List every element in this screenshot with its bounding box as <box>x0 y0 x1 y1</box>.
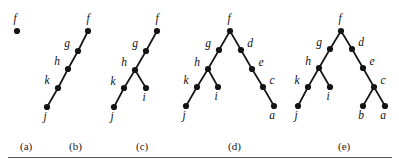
tree-node-label-c-k: k <box>110 75 116 87</box>
tree-edge-e-c-b <box>363 87 374 106</box>
tree-edge-c-h-i <box>135 70 146 88</box>
tree-node-e-h[interactable] <box>316 65 322 71</box>
tree-node-label-c-f: f <box>155 12 160 25</box>
tree-node-d-e[interactable] <box>249 66 255 72</box>
tree-edge-e-f-g <box>330 31 341 49</box>
tree-node-label-e-g: g <box>316 36 322 49</box>
tree-node-label-e-f: f <box>338 12 343 25</box>
tree-node-label-d-d: d <box>247 37 253 49</box>
panel-caption-b: (b) <box>69 140 82 152</box>
tree-edge-d-g-h <box>208 50 219 69</box>
tree-node-c-f[interactable] <box>154 28 160 34</box>
panel-caption-d: (d) <box>228 140 241 152</box>
tree-edge-c-f-g <box>146 31 157 51</box>
tree-node-label-d-j: j <box>180 109 185 122</box>
tree-edge-e-e-c <box>363 68 374 87</box>
tree-node-e-c[interactable] <box>371 84 377 90</box>
tree-node-label-e-h: h <box>305 55 311 67</box>
tree-node-label-c-i: i <box>142 91 145 103</box>
tree-edge-d-k-j <box>186 87 197 106</box>
figure-root: ffghkjfghkijfgdhekicjafgdhekicjba (a)(b)… <box>0 0 399 167</box>
tree-edge-c-h-k <box>124 70 135 88</box>
tree-node-label-e-i: i <box>326 90 329 102</box>
tree-node-d-h[interactable] <box>205 66 211 72</box>
tree-edge-e-h-k <box>308 68 319 87</box>
panels-layer: ffghkjfghkijfgdhekicjafgdhekicjba <box>13 12 388 123</box>
tree-node-label-e-e: e <box>369 55 374 67</box>
tree-node-label-d-c: c <box>269 74 274 86</box>
tree-node-b-k[interactable] <box>55 85 61 91</box>
tree-node-c-k[interactable] <box>121 85 127 91</box>
tree-edge-d-e-c <box>252 69 263 87</box>
tree-panel-b: fghkj <box>41 12 91 123</box>
tree-edge-e-h-i <box>319 68 330 87</box>
tree-node-label-d-f: f <box>227 12 232 25</box>
tree-node-label-b-j: j <box>41 110 46 123</box>
tree-node-label-c-g: g <box>132 37 138 50</box>
tree-node-d-d[interactable] <box>238 47 244 53</box>
tree-edge-c-g-h <box>135 51 146 70</box>
tree-node-label-e-a: a <box>380 109 386 121</box>
tree-panel-e: fgdhekicjba <box>292 12 388 122</box>
tree-edge-e-d-e <box>352 49 363 68</box>
tree-edge-e-g-h <box>319 49 330 68</box>
tree-node-label-d-a: a <box>269 109 275 121</box>
tree-node-label-a-f: f <box>13 12 18 25</box>
tree-node-label-e-c: c <box>380 74 385 86</box>
tree-node-d-g[interactable] <box>216 47 222 53</box>
panel-caption-a: (a) <box>20 140 32 152</box>
tree-node-label-d-h: h <box>194 56 200 68</box>
tree-node-label-c-h: h <box>121 56 127 68</box>
tree-node-label-c-j: j <box>108 110 113 123</box>
tree-edge-d-c-a <box>263 87 274 106</box>
tree-node-c-g[interactable] <box>143 48 149 54</box>
tree-node-e-k[interactable] <box>305 84 311 90</box>
panel-caption-c: (c) <box>136 140 148 152</box>
tree-node-e-f[interactable] <box>338 28 344 34</box>
tree-node-e-g[interactable] <box>327 46 333 52</box>
tree-node-e-e[interactable] <box>360 65 366 71</box>
panel-caption-e: (e) <box>338 140 350 152</box>
tree-node-d-k[interactable] <box>194 84 200 90</box>
tree-edge-b-h-k <box>58 69 68 88</box>
tree-node-label-d-i: i <box>214 90 217 102</box>
tree-edge-e-c-a <box>374 87 385 106</box>
tree-node-c-h[interactable] <box>132 67 138 73</box>
tree-node-d-f[interactable] <box>227 28 233 34</box>
tree-node-label-b-h: h <box>54 55 60 67</box>
tree-node-label-b-k: k <box>44 74 50 86</box>
tree-node-a-f[interactable] <box>14 28 20 34</box>
tree-panel-d: fgdhekicja <box>180 12 277 122</box>
tree-node-label-e-j: j <box>292 109 297 122</box>
tree-node-label-b-g: g <box>64 37 70 50</box>
tree-edge-e-k-j <box>298 87 308 106</box>
tree-edge-b-f-g <box>78 31 88 51</box>
tree-panel-a: f <box>13 12 20 34</box>
tree-edge-d-h-k <box>197 69 208 87</box>
tree-node-b-f[interactable] <box>85 28 91 34</box>
tree-node-label-d-g: g <box>205 37 211 50</box>
tree-edge-b-k-j <box>47 88 58 107</box>
tree-node-label-d-k: k <box>183 74 189 86</box>
tree-node-b-g[interactable] <box>75 48 81 54</box>
tree-node-label-e-b: b <box>358 109 364 121</box>
tree-node-e-d[interactable] <box>349 46 355 52</box>
tree-edge-d-d-e <box>241 50 252 69</box>
tree-node-d-c[interactable] <box>260 84 266 90</box>
caption-divider-rule <box>8 157 392 158</box>
tree-node-label-b-f: f <box>86 12 91 25</box>
tree-edge-d-f-g <box>219 31 230 50</box>
tree-node-b-h[interactable] <box>65 66 71 72</box>
tree-edge-e-f-d <box>341 31 352 49</box>
tree-panel-c: fghkij <box>108 12 160 123</box>
tree-node-label-e-d: d <box>358 36 364 48</box>
tree-edge-c-k-j <box>114 88 124 107</box>
tree-node-label-e-k: k <box>294 74 300 86</box>
tree-node-label-d-e: e <box>258 56 263 68</box>
tree-edge-d-f-d <box>230 31 241 50</box>
